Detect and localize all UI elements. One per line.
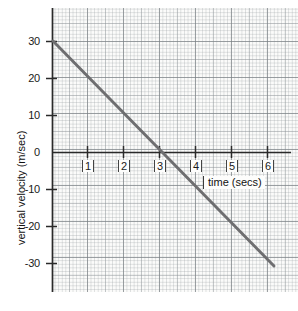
- y-tick-label-30: 30: [6, 36, 40, 47]
- velocity-time-graph-figure: 30 20 10 0 -10 -20 -30 1 2 3 4 5 6 time …: [0, 0, 298, 311]
- x-tick-label-5: 5: [226, 160, 238, 172]
- y-tick-label-10: 10: [6, 110, 40, 121]
- velocity-line-series: [53, 41, 274, 266]
- x-tick-label-6: 6: [262, 160, 274, 172]
- y-tick-label-20: 20: [6, 73, 40, 84]
- y-axis-title: vertical velocity (m/sec): [15, 131, 27, 245]
- x-tick-label-2: 2: [118, 160, 130, 172]
- y-tick-label-neg30: -30: [6, 258, 40, 269]
- x-tick-label-1: 1: [82, 160, 94, 172]
- x-axis-title: time (secs): [203, 176, 265, 189]
- x-tick-label-3: 3: [154, 160, 166, 172]
- x-tick-label-4: 4: [190, 160, 202, 172]
- axes-and-plot-svg: [0, 0, 298, 311]
